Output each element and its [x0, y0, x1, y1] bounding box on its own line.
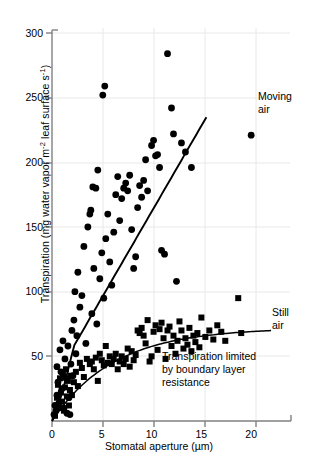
data-point-moving-air — [93, 321, 100, 328]
data-point-still-air — [222, 338, 228, 344]
data-point-still-air — [157, 326, 163, 332]
data-point-moving-air — [161, 251, 168, 258]
y-tick-label: 300 — [25, 27, 43, 39]
data-point-moving-air — [54, 392, 61, 399]
x-axis-title: Stomatal aperture (µm) — [0, 440, 318, 452]
data-point-still-air — [184, 342, 190, 348]
data-point-still-air — [115, 366, 121, 372]
still-air-label-line: Still — [272, 306, 289, 318]
data-point-moving-air — [89, 184, 96, 191]
transpiration-chart-figure: 50100150200250300 05101520 MovingairStil… — [0, 0, 318, 463]
data-point-moving-air — [150, 137, 157, 144]
data-point-moving-air — [132, 253, 139, 260]
data-point-still-air — [79, 365, 85, 371]
data-point-moving-air — [58, 368, 65, 375]
data-point-still-air — [151, 329, 157, 335]
data-point-moving-air — [106, 259, 113, 266]
data-point-moving-air — [57, 346, 64, 353]
data-point-moving-air — [65, 343, 72, 350]
still-air-label-line: air — [272, 319, 284, 331]
data-point-still-air — [103, 343, 109, 349]
moving-air-label-line: air — [258, 103, 270, 115]
data-point-moving-air — [84, 224, 91, 231]
x-axis-tick-labels: 05101520 — [49, 428, 257, 440]
data-point-moving-air — [154, 151, 161, 158]
data-point-moving-air — [124, 187, 131, 194]
data-point-moving-air — [99, 92, 106, 99]
data-point-still-air — [81, 374, 87, 380]
data-point-moving-air — [98, 249, 105, 256]
data-point-moving-air — [173, 278, 180, 285]
data-point-still-air — [159, 320, 165, 326]
data-point-still-air — [214, 322, 220, 328]
data-point-moving-air — [130, 265, 137, 272]
data-point-still-air — [113, 351, 119, 357]
x-tick-label: 0 — [49, 428, 55, 440]
boundary-layer-note-line: by boundary layer — [162, 363, 246, 375]
data-point-still-air — [77, 360, 83, 366]
x-axis-ticks — [52, 421, 256, 427]
data-point-still-air — [67, 387, 73, 393]
data-point-moving-air — [112, 191, 119, 198]
y-axis-title: Transpiration (mg water vapor m-2 leaf s… — [39, 44, 51, 324]
data-point-still-air — [95, 378, 101, 384]
data-point-still-air — [143, 340, 149, 346]
data-point-moving-air — [138, 194, 145, 201]
data-point-moving-air — [80, 243, 87, 250]
data-point-still-air — [167, 324, 173, 330]
data-point-moving-air — [126, 172, 133, 179]
x-tick-label: 5 — [99, 428, 105, 440]
data-point-moving-air — [110, 229, 117, 236]
moving-air-label-line: Moving — [258, 90, 292, 102]
data-point-still-air — [198, 315, 204, 321]
data-point-moving-air — [90, 265, 97, 272]
data-point-moving-air — [142, 156, 149, 163]
x-tick-label: 15 — [196, 428, 208, 440]
data-point-moving-air — [69, 327, 76, 334]
data-point-moving-air — [104, 211, 111, 218]
data-point-still-air — [121, 361, 127, 367]
data-point-moving-air — [164, 50, 171, 57]
data-point-still-air — [91, 366, 97, 372]
data-point-still-air — [235, 295, 241, 301]
data-point-still-air — [161, 335, 167, 341]
data-point-moving-air — [134, 204, 141, 211]
data-point-still-air — [139, 325, 145, 331]
data-point-still-air — [170, 333, 176, 339]
y-tick-label: 50 — [31, 350, 43, 362]
data-point-still-air — [141, 333, 147, 339]
data-point-still-air — [194, 330, 200, 336]
data-point-moving-air — [156, 164, 163, 171]
boundary-layer-note-line: resistance — [162, 376, 210, 388]
x-tick-label: 10 — [146, 428, 158, 440]
boundary-layer-note-line: Transpiration limited — [162, 350, 256, 362]
data-point-moving-air — [94, 167, 101, 174]
data-point-still-air — [192, 339, 198, 345]
data-point-moving-air — [70, 372, 77, 379]
data-point-still-air — [155, 347, 161, 353]
data-point-moving-air — [74, 269, 81, 276]
data-point-still-air — [97, 351, 103, 357]
data-point-moving-air — [122, 180, 129, 187]
data-point-moving-air — [71, 317, 78, 324]
data-point-still-air — [127, 364, 133, 370]
data-point-still-air — [99, 357, 105, 363]
data-point-still-air — [145, 317, 151, 323]
data-point-moving-air — [248, 132, 255, 139]
data-point-still-air — [131, 357, 137, 363]
data-point-moving-air — [55, 379, 62, 386]
data-point-moving-air — [76, 304, 83, 311]
data-point-moving-air — [67, 411, 74, 418]
data-point-moving-air — [128, 226, 135, 233]
data-point-moving-air — [114, 173, 121, 180]
data-point-still-air — [169, 343, 175, 349]
boundary-layer-note: Transpiration limitedby boundary layerre… — [162, 350, 256, 388]
data-point-still-air — [206, 327, 212, 333]
data-point-still-air — [186, 325, 192, 331]
data-point-still-air — [149, 353, 155, 359]
data-point-moving-air — [72, 288, 79, 295]
data-point-moving-air — [116, 217, 123, 224]
data-point-moving-air — [178, 140, 185, 147]
data-point-moving-air — [60, 337, 67, 344]
data-point-moving-air — [78, 292, 85, 299]
